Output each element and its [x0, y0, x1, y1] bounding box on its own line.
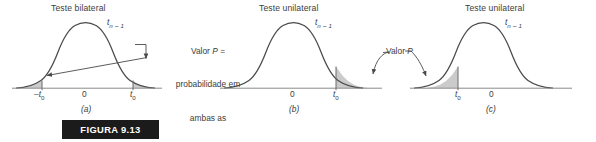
panel-a-curve [16, 23, 155, 88]
panel-c-tick-t0-sub: 0 [457, 94, 460, 101]
panel-a-tick-neg-t0-base: –t [34, 89, 41, 99]
panel-c-curve-label-sub: n – 1 [507, 22, 522, 29]
two-tail-annotation-line1-prefix: Valor [191, 46, 212, 56]
two-tail-annotation-line2: probabilidade em [152, 79, 264, 90]
panel-c-curve-label: tn – 1 [505, 18, 522, 29]
panel-c-left-tail-shading [418, 67, 458, 89]
panel-b-curve-label: tn – 1 [315, 18, 332, 29]
two-tail-annotation: Valor P = probabilidade em ambas as extr… [152, 24, 264, 142]
panel-c-tick-label-t0: t0 [455, 90, 461, 101]
panel-b-curve-label-sub: n – 1 [317, 22, 332, 29]
two-tail-annotation-line3: ambas as [152, 113, 264, 124]
panel-a-tick-neg-t0-sub: 0 [41, 94, 44, 101]
panel-c-annotation-arrow [411, 51, 426, 76]
panel-a-curve-label: tn – 1 [107, 18, 124, 29]
panel-a-tick-pos-t0-sub: 0 [132, 94, 135, 101]
panel-b-right-tail-shading [336, 67, 376, 89]
figure-number-badge: FIGURA 9.13 [62, 120, 159, 139]
two-tail-annotation-line1: Valor P = [152, 46, 264, 57]
panel-c-curve [414, 23, 553, 88]
panel-b-title: Teste unilateral [259, 4, 318, 14]
one-tail-pvalue-prefix: Valor [386, 46, 407, 56]
panel-a-tick-label-neg-t0: –t0 [34, 90, 44, 101]
panel-a-plot [12, 23, 162, 90]
two-tail-annotation-line1-suffix: = [218, 46, 225, 56]
panel-a-caption: (a) [81, 105, 91, 115]
panel-a-annotation-arrow-left [47, 58, 147, 76]
panel-c-caption: (c) [486, 105, 496, 115]
panel-b-tick-label-t0: t0 [333, 90, 339, 101]
panel-a-title: Teste bilateral [51, 4, 106, 14]
panel-b-tick-t0-sub: 0 [335, 94, 338, 101]
panel-c-title: Teste unilateral [465, 4, 524, 14]
panel-a-tick-label-pos-t0: t0 [130, 90, 136, 101]
panel-b-caption: (b) [289, 105, 299, 115]
panel-c-plot [405, 23, 572, 90]
one-tail-pvalue-italic: P [407, 46, 413, 56]
panel-a-curve-label-sub: n – 1 [109, 22, 124, 29]
figure-container: Teste bilateral tn – 1 –t0 0 t0 (a) Valo… [0, 0, 596, 142]
panel-a-tick-label-zero: 0 [82, 90, 87, 100]
panel-b-tick-label-zero: 0 [290, 90, 295, 100]
one-tail-pvalue-annotation: Valor P [386, 47, 413, 57]
panel-c-tick-label-zero: 0 [489, 90, 494, 100]
